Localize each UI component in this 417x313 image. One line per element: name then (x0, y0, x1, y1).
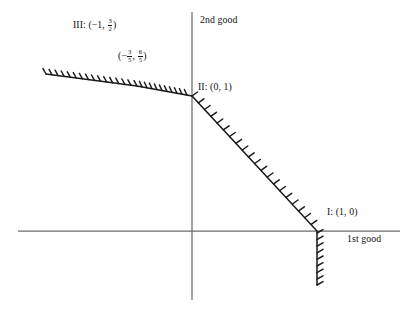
hatch-marks-segment-main (192, 92, 317, 224)
label-kink-x-denominator: 5 (127, 57, 132, 64)
frontier-group (43, 69, 323, 285)
label-kink-y-fraction: 65 (138, 49, 143, 63)
label-point-II: II: (0, 1) (198, 82, 232, 92)
label-kink-x-fraction: 35 (127, 49, 132, 63)
hatch-marks-segment-kink-to-y (139, 81, 187, 95)
label-point-kink: (−35, 65) (118, 49, 147, 63)
x-axis-label: 1st good (347, 234, 381, 244)
label-kink-x-sign: − (121, 50, 127, 61)
label-kink-separator: , (133, 50, 138, 61)
frontier-line (46, 74, 317, 285)
label-III-prefix: III: ( (73, 19, 92, 30)
hatch-marks-segment-vertical (317, 230, 323, 285)
label-III-suffix: ) (113, 19, 116, 30)
label-point-I: I: (1, 0) (327, 207, 358, 217)
label-III-separator: , (102, 19, 107, 30)
label-kink-suffix: ) (143, 50, 146, 61)
figure-canvas: III: (−1, 32) (−35, 65) 2nd good II: (0,… (0, 0, 417, 313)
label-III-y-denominator: 2 (108, 26, 113, 33)
label-III-y-fraction: 32 (108, 18, 113, 32)
y-axis-label: 2nd good (200, 15, 238, 25)
label-point-III: III: (−1, 32) (73, 18, 116, 32)
axes-group (18, 12, 400, 300)
label-III-x-value: −1 (92, 19, 102, 30)
diagram-svg (0, 0, 417, 313)
label-kink-y-denominator: 5 (138, 57, 143, 64)
